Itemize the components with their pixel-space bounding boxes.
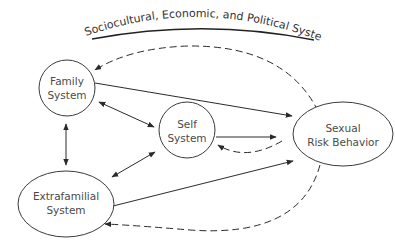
family-system-label-line1: Family (50, 75, 84, 87)
edge-family-self (99, 102, 154, 127)
edge-extrafamilial-to-sexual (113, 161, 293, 206)
extrafamilial-system-label-line1: Extrafamilial (33, 190, 99, 202)
title-text: Sociocultural, Economic, and Political S… (0, 0, 324, 44)
sexual-risk-behavior-label-line1: Sexual (325, 122, 360, 134)
family-system-label-line2: System (47, 89, 86, 101)
node-sexual-risk-behavior: Sexual Risk Behavior (293, 102, 393, 166)
self-system-label-line2: System (167, 132, 206, 144)
self-system-circle (159, 102, 215, 158)
systems-diagram: Sociocultural, Economic, and Political S… (0, 0, 395, 241)
node-self-system: Self System (159, 102, 215, 158)
edge-sexual-to-extrafamilial-feedback (105, 165, 320, 231)
diagram-title: Sociocultural, Economic, and Political S… (0, 0, 324, 44)
svg-text:Sociocultural, Economic, and P: Sociocultural, Economic, and Political S… (0, 0, 324, 44)
sexual-risk-behavior-label-line2: Risk Behavior (307, 136, 379, 148)
family-system-circle (39, 60, 95, 116)
self-system-label-line1: Self (177, 118, 197, 130)
sexual-risk-behavior-ellipse (293, 102, 393, 166)
edge-sexual-to-self-feedback (218, 141, 282, 153)
edge-extrafamilial-self (112, 152, 155, 177)
node-extrafamilial-system: Extrafamilial System (18, 171, 114, 237)
extrafamilial-system-label-line2: System (46, 204, 85, 216)
node-family-system: Family System (39, 60, 95, 116)
